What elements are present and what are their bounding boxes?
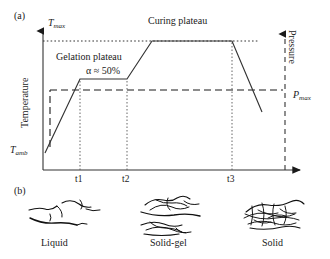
- state-label-solid-gel: Solid-gel: [150, 238, 187, 248]
- tmax-subscript: max: [54, 22, 66, 30]
- panel-a-label: (a): [14, 11, 25, 21]
- annotation-alpha-conversion: α ≈ 50%: [86, 66, 120, 76]
- tamb-subscript: amb: [16, 149, 28, 157]
- annotation-gelation-plateau: Gelation plateau: [56, 52, 122, 62]
- sketch-solid-gel: [141, 196, 200, 235]
- pmax-pressure-line: [50, 90, 283, 147]
- y-axis-title: Temperature: [20, 78, 30, 128]
- x-tick-t1: t1: [75, 175, 82, 185]
- state-label-solid: Solid: [262, 238, 283, 248]
- figure-epoxy-cure-cycle: [0, 0, 330, 259]
- x-tick-t3: t3: [227, 175, 234, 185]
- sketch-liquid: [29, 200, 100, 225]
- pressure-axis-title: Pressure: [287, 30, 297, 64]
- sketch-solid: [244, 200, 304, 229]
- state-label-liquid: Liquid: [41, 238, 68, 248]
- pmax-subscript: max: [299, 94, 311, 102]
- panel-b-label: (b): [14, 186, 26, 196]
- x-tick-t2: t2: [122, 175, 129, 185]
- annotation-curing-plateau: Curing plateau: [148, 16, 207, 26]
